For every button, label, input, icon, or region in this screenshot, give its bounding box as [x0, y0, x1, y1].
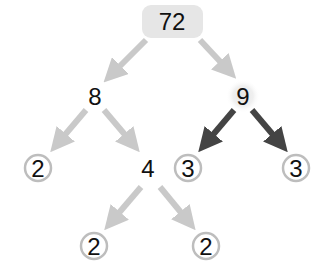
node-72: 72 — [142, 5, 203, 38]
arrow-4-to-2-left — [112, 187, 141, 221]
node-2-prime-left: 2 — [25, 155, 51, 182]
node-label-2: 2 — [199, 233, 212, 260]
node-3-prime-right: 3 — [283, 155, 309, 182]
factor-tree-diagram: 72 8 9 2 4 3 3 2 2 — [0, 0, 325, 276]
node-8: 8 — [88, 83, 101, 110]
node-label-2: 2 — [31, 155, 44, 182]
node-2-prime-bottom-right: 2 — [193, 233, 219, 260]
arrow-8-to-4 — [104, 110, 132, 143]
edges — [58, 40, 280, 221]
node-label-72: 72 — [159, 8, 186, 35]
arrow-72-to-9 — [200, 40, 228, 70]
node-label-4: 4 — [141, 155, 154, 182]
node-4: 4 — [141, 155, 154, 182]
node-label-9: 9 — [236, 83, 249, 110]
node-label-8: 8 — [88, 83, 101, 110]
node-3-prime-left: 3 — [175, 155, 201, 182]
node-label-3: 3 — [181, 155, 194, 182]
node-label-2: 2 — [87, 233, 100, 260]
arrow-4-to-2-right — [160, 187, 188, 221]
node-9: 9 — [226, 79, 260, 113]
arrow-9-to-3-left — [206, 110, 234, 143]
arrow-72-to-8 — [112, 40, 146, 74]
node-label-3: 3 — [289, 155, 302, 182]
node-2-prime-bottom-left: 2 — [81, 233, 107, 260]
arrow-8-to-2 — [58, 110, 86, 143]
arrow-9-to-3-right — [252, 110, 280, 143]
